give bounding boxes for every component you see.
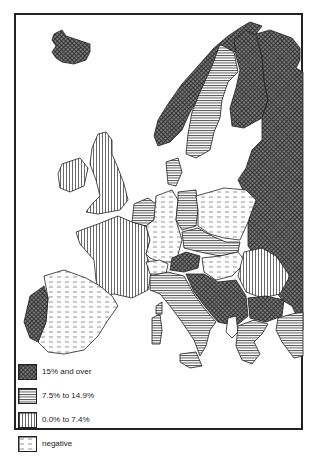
legend-label: 15% and over	[42, 367, 91, 376]
legend-item-neg: negative	[18, 434, 94, 453]
region-turkey	[276, 312, 303, 358]
region-uk	[86, 132, 128, 214]
swatch-dashed	[18, 436, 37, 452]
region-albania	[226, 316, 238, 338]
legend-item-low: 0.0% to 7.4%	[18, 410, 94, 429]
region-corsica	[156, 302, 162, 314]
legend-label: 7.5% to 14.9%	[42, 391, 94, 400]
swatch-horizontal-lines	[18, 388, 37, 404]
region-ireland	[58, 158, 88, 192]
region-denmark	[166, 158, 182, 186]
region-sardinia	[152, 314, 162, 344]
region-east-germany	[176, 190, 198, 230]
legend-item-mid: 7.5% to 14.9%	[18, 386, 94, 405]
region-greece	[236, 320, 268, 364]
swatch-vertical-lines	[18, 412, 37, 428]
legend-item-high: 15% and over	[18, 362, 94, 381]
map-legend: 15% and over 7.5% to 14.9% 0.0% to 7.4% …	[18, 362, 94, 456]
swatch-crosshatch	[18, 364, 37, 380]
region-iceland	[52, 30, 90, 64]
legend-label: 0.0% to 7.4%	[42, 415, 90, 424]
region-sicily	[180, 352, 202, 368]
region-switzerland	[146, 260, 168, 274]
legend-label: negative	[42, 439, 72, 448]
